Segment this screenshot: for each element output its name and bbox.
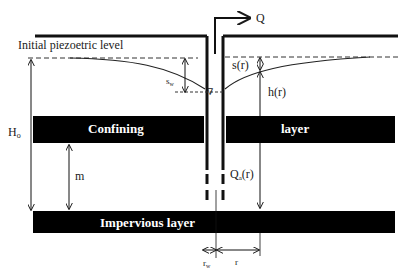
hr-label: h(r) (268, 85, 286, 99)
sw-label: sw (166, 76, 175, 87)
rw-label: rw (203, 258, 211, 269)
sr-label: s(r) (232, 58, 249, 72)
well-casing (207, 36, 223, 200)
confining-layer-right (226, 116, 395, 143)
initial-piezometric-label: Initial piezoetric level (18, 38, 124, 52)
impervious-layer (33, 211, 395, 233)
m-label: m (75, 169, 85, 183)
ho-label: Ho (8, 125, 21, 140)
qa-label: Qa(r) (230, 167, 254, 182)
impervious-label: Impervious layer (100, 215, 195, 230)
water-level-symbol: ∇ (207, 87, 213, 97)
discharge-label: Q (256, 11, 265, 25)
confining-label: Confining (88, 121, 144, 136)
layer-label: layer (281, 121, 309, 136)
r-label: r (235, 257, 238, 267)
aquifer-diagram: Q Initial piezoetric level ∇ sw s(r) h(r… (0, 0, 410, 277)
